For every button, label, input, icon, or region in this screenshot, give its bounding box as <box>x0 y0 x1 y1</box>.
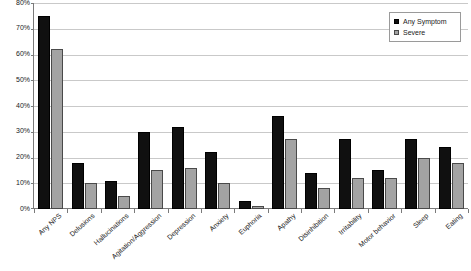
y-tick-label: 30% <box>0 127 30 134</box>
legend-label: Severe <box>403 29 425 36</box>
y-tick-label: 40% <box>0 102 30 109</box>
bar-sev-2 <box>118 196 130 209</box>
bar-chart: 80% 70% 60% 50% 40% 30% 20% 10% 0% Any N… <box>0 0 471 271</box>
legend-item-any-symptom: Any Symptom <box>394 16 456 27</box>
y-tick-label: 70% <box>0 24 30 31</box>
bar-group <box>239 3 264 209</box>
gray-square-icon <box>394 30 399 35</box>
y-tick-label: 10% <box>0 179 30 186</box>
bar-any-0 <box>38 16 50 209</box>
y-tick-label: 20% <box>0 153 30 160</box>
bar-group <box>339 3 364 209</box>
black-square-icon <box>394 19 399 24</box>
y-tick-label: 60% <box>0 50 30 57</box>
chart-legend: Any Symptom Severe <box>389 12 461 42</box>
bar-any-12 <box>439 147 451 209</box>
y-tick-label: 80% <box>0 0 30 6</box>
y-tick-label: 50% <box>0 76 30 83</box>
bar-sev-8 <box>318 188 330 209</box>
bar-sev-12 <box>452 163 464 209</box>
x-axis-labels: Any NPSDelusionsHallucinationsAgitation/… <box>34 212 468 271</box>
bar-group <box>205 3 230 209</box>
legend-label: Any Symptom <box>403 18 447 25</box>
y-tick-label: 0% <box>0 205 30 212</box>
bar-group <box>72 3 97 209</box>
bar-sev-7 <box>285 139 297 209</box>
bar-sev-0 <box>51 49 63 209</box>
bar-group <box>38 3 63 209</box>
bar-sev-10 <box>385 178 397 209</box>
bar-group <box>272 3 297 209</box>
bar-sev-1 <box>85 183 97 209</box>
bar-group <box>172 3 197 209</box>
legend-item-severe: Severe <box>394 27 456 38</box>
bar-group <box>105 3 130 209</box>
bar-group <box>138 3 163 209</box>
bar-group <box>305 3 330 209</box>
